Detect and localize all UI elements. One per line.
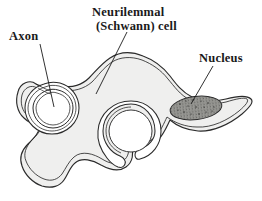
- schwann-cell-figure: Axon Neurilemmal (Schwann) cell Nucleus: [0, 0, 262, 201]
- axon-upper-left-axoplasm: [36, 92, 70, 125]
- label-neurilemmal-line-2: (Schwann) cell: [92, 20, 177, 34]
- axon-upper-left: [25, 82, 79, 134]
- label-neurilemmal-line-1: Neurilemmal: [92, 5, 164, 19]
- label-neurilemmal-schwann-cell: Neurilemmal (Schwann) cell: [92, 6, 177, 33]
- label-nucleus: Nucleus: [199, 52, 243, 66]
- label-axon: Axon: [9, 30, 38, 44]
- axon-lower-middle-axoplasm: [109, 110, 152, 152]
